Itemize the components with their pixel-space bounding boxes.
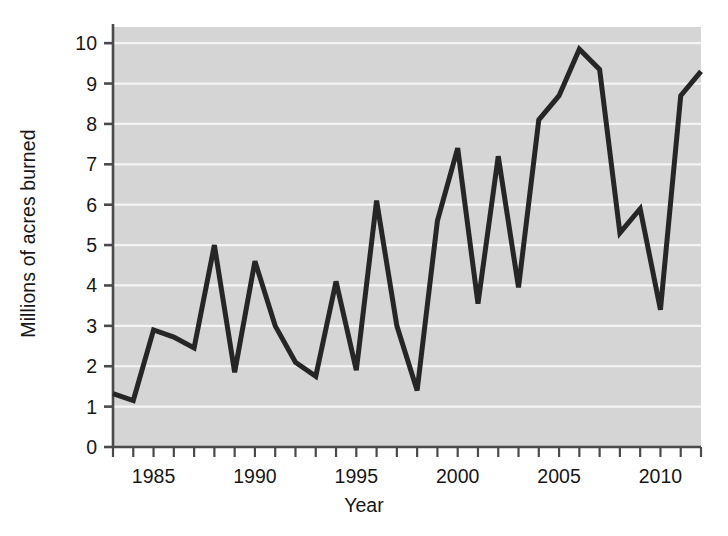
plot-area-svg: 012345678910 198519901995200020052010: [0, 0, 728, 536]
plot-background: [113, 27, 701, 447]
y-tick-label: 9: [86, 73, 97, 95]
y-tick-label: 8: [86, 113, 97, 135]
wildfire-acres-burned-chart: Millions of acres burned Year 0123456789…: [0, 0, 728, 536]
y-tick-label: 6: [86, 194, 97, 216]
y-tick-label: 7: [86, 153, 97, 175]
x-tick-label: 2000: [436, 465, 480, 487]
y-tick-label: 0: [86, 436, 97, 458]
y-tick-label: 2: [86, 355, 97, 377]
y-axis-ticks-group: [104, 43, 113, 447]
x-tick-label: 1995: [335, 465, 379, 487]
x-tick-label: 1985: [132, 465, 176, 487]
y-tick-label: 3: [86, 315, 97, 337]
y-tick-label: 10: [75, 32, 97, 54]
x-tick-label: 2005: [537, 465, 581, 487]
y-tick-labels-group: 012345678910: [75, 32, 97, 458]
y-tick-label: 5: [86, 234, 97, 256]
y-tick-label: 1: [86, 396, 97, 418]
y-tick-label: 4: [86, 274, 97, 296]
x-tick-label: 1990: [233, 465, 277, 487]
x-tick-labels-group: 198519901995200020052010: [132, 465, 682, 487]
plot-background-group: [113, 27, 701, 447]
x-tick-label: 2010: [639, 465, 683, 487]
x-axis-ticks-group: [113, 447, 701, 457]
